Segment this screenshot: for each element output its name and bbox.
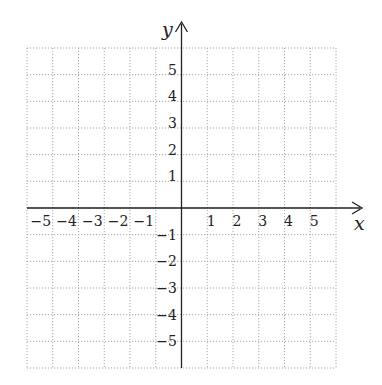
x-tick-label: 5 xyxy=(310,213,319,229)
y-tick-label: −2 xyxy=(156,253,177,269)
x-tick-label: 2 xyxy=(233,213,242,229)
y-tick-label: 2 xyxy=(168,142,177,158)
x-tick-label: −5 xyxy=(30,213,51,229)
coordinate-plane: x y −5−4−3−2−112345 −5−4−3−2−112345 xyxy=(0,0,382,385)
x-axis-label: x xyxy=(354,212,365,234)
x-tick-label: −3 xyxy=(82,213,103,229)
y-tick-label: −5 xyxy=(156,333,177,349)
y-tick-label: 4 xyxy=(168,88,177,104)
x-tick-label: 3 xyxy=(258,213,267,229)
y-axis-label: y xyxy=(161,18,173,40)
x-tick-label: −4 xyxy=(56,213,77,229)
y-tick-label: −3 xyxy=(156,280,177,296)
x-tick-label: −1 xyxy=(133,213,154,229)
y-tick-label: −4 xyxy=(156,307,177,323)
x-tick-label: −2 xyxy=(108,213,129,229)
y-tick-labels: −5−4−3−2−112345 xyxy=(156,62,177,350)
y-tick-label: 1 xyxy=(168,168,177,184)
y-tick-label: 5 xyxy=(168,62,177,78)
x-tick-label: 1 xyxy=(207,213,216,229)
y-tick-label: −1 xyxy=(156,227,177,243)
axes xyxy=(27,22,362,368)
y-tick-label: 3 xyxy=(168,115,177,131)
x-tick-label: 4 xyxy=(284,213,293,229)
